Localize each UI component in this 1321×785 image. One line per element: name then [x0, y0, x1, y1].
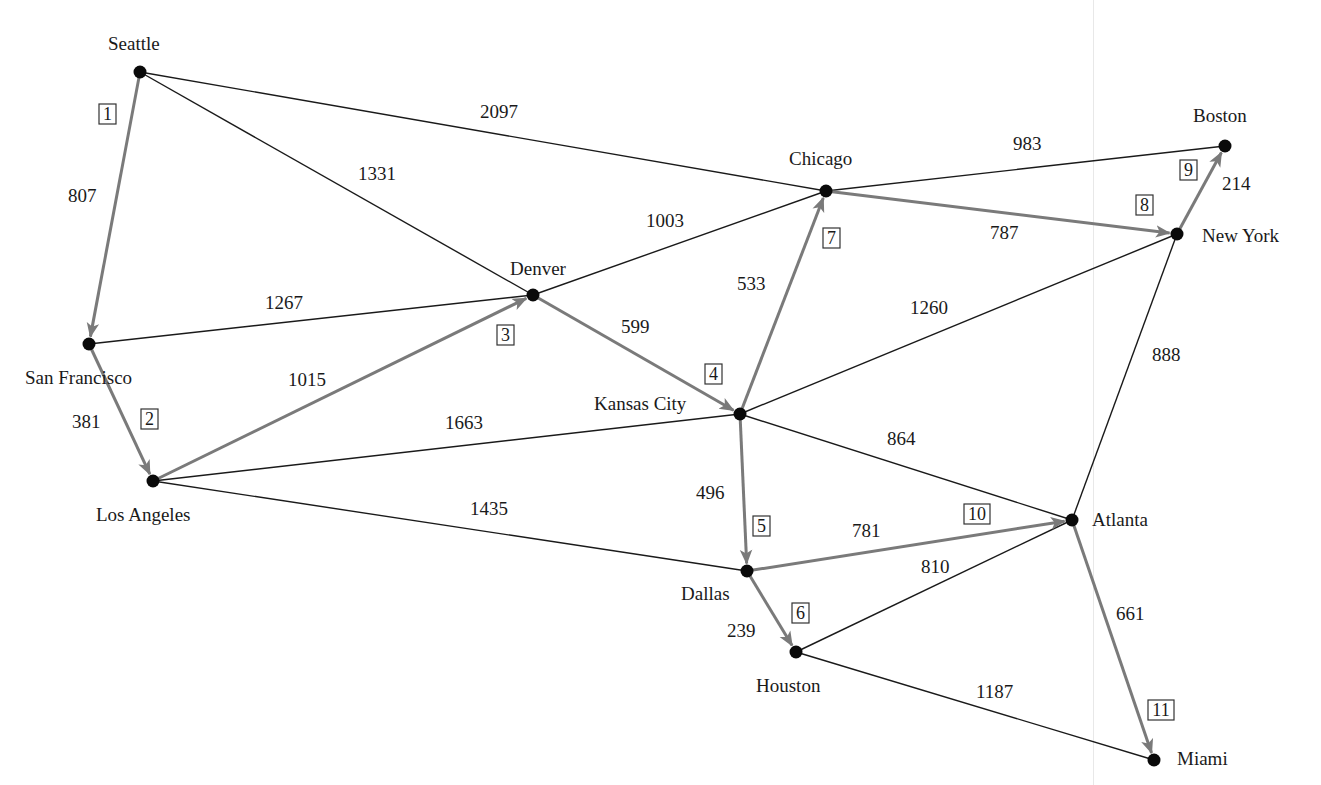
- edge-weight-label: 214: [1222, 173, 1251, 194]
- city-node-atlanta: [1066, 514, 1079, 527]
- step-number: 7: [827, 228, 836, 248]
- edge-seattle-chicago: [140, 72, 826, 191]
- city-node-miami: [1148, 754, 1161, 767]
- edge-weight-label: 533: [737, 273, 766, 294]
- step-number: 1: [103, 104, 112, 124]
- city-labels-layer: SeattleSan FranciscoLos AngelesDenverChi…: [25, 33, 1280, 769]
- edge-weight-label: 1015: [288, 369, 326, 390]
- city-node-houston: [790, 646, 803, 659]
- edge-weight-label: 1331: [358, 163, 396, 184]
- edge-denver-chicago: [533, 191, 826, 295]
- city-label-seattle: Seattle: [108, 33, 160, 54]
- edge-weight-label: 1003: [646, 210, 684, 231]
- city-label-kansascity: Kansas City: [594, 393, 687, 414]
- edge-losangeles-dallas: [153, 481, 747, 571]
- step-badge: 9: [1180, 160, 1197, 180]
- tree-edge-kansascity-chicago: [740, 198, 823, 414]
- edge-weight-label: 781: [852, 520, 881, 541]
- city-label-atlanta: Atlanta: [1092, 509, 1148, 530]
- step-badge: 6: [792, 603, 809, 623]
- tree-edge-losangeles-denver: [153, 298, 526, 481]
- tree-edge-kansascity-dallas: [740, 414, 747, 564]
- edge-weight-label: 1260: [910, 297, 948, 318]
- edge-weight-label: 1187: [976, 681, 1013, 702]
- city-label-sanfrancisco: San Francisco: [25, 367, 132, 388]
- nodes-layer: [83, 66, 1232, 767]
- step-badge: 1: [99, 104, 116, 124]
- step-badge: 3: [497, 325, 514, 345]
- city-node-denver: [527, 289, 540, 302]
- edge-weight-label: 1663: [445, 412, 483, 433]
- city-node-newyork: [1171, 228, 1184, 241]
- edge-weight-label: 661: [1116, 603, 1145, 624]
- edge-weight-label: 807: [68, 185, 97, 206]
- step-badge: 7: [823, 228, 840, 248]
- edge-weight-label: 888: [1152, 344, 1181, 365]
- city-node-kansascity: [734, 408, 747, 421]
- edge-kansascity-newyork: [740, 234, 1177, 414]
- step-badge: 8: [1136, 195, 1153, 215]
- edge-weight-label: 1435: [470, 498, 508, 519]
- edges-layer: [89, 72, 1225, 760]
- city-label-dallas: Dallas: [681, 583, 730, 604]
- edge-weight-label: 983: [1013, 133, 1042, 154]
- step-number: 9: [1184, 160, 1193, 180]
- city-node-dallas: [741, 565, 754, 578]
- step-number: 4: [709, 364, 718, 384]
- step-badge: 11: [1148, 700, 1174, 720]
- step-number: 8: [1140, 195, 1149, 215]
- step-badge: 4: [705, 364, 722, 384]
- edge-weight-label: 864: [887, 428, 916, 449]
- edge-newyork-atlanta: [1072, 234, 1177, 520]
- step-badge: 5: [753, 516, 770, 536]
- edge-weight-label: 1267: [265, 292, 303, 313]
- step-number: 6: [796, 603, 805, 623]
- city-graph-diagram: 2097133180712673811015166314351003599533…: [0, 0, 1321, 785]
- city-node-seattle: [134, 66, 147, 79]
- city-label-newyork: New York: [1202, 225, 1280, 246]
- tree-edge-atlanta-miami: [1072, 520, 1152, 753]
- city-label-boston: Boston: [1193, 105, 1247, 126]
- step-number: 2: [145, 409, 154, 429]
- city-label-losangeles: Los Angeles: [96, 504, 190, 525]
- city-label-miami: Miami: [1177, 748, 1228, 769]
- city-label-chicago: Chicago: [789, 148, 852, 169]
- edge-weight-label: 239: [727, 620, 756, 641]
- city-node-chicago: [820, 185, 833, 198]
- edge-weight-label: 810: [921, 556, 950, 577]
- city-node-boston: [1219, 140, 1232, 153]
- edge-sanfrancisco-denver: [89, 295, 533, 344]
- edge-weight-label: 496: [696, 482, 725, 503]
- city-label-houston: Houston: [756, 675, 821, 696]
- step-number: 5: [757, 516, 766, 536]
- edge-houston-atlanta: [796, 520, 1072, 652]
- edge-houston-miami: [796, 652, 1154, 760]
- city-label-denver: Denver: [510, 258, 567, 279]
- city-node-sanfrancisco: [83, 338, 96, 351]
- edge-weight-label: 599: [621, 316, 650, 337]
- edge-weight-label: 787: [990, 222, 1019, 243]
- step-number: 10: [968, 504, 986, 524]
- step-badge: 2: [141, 409, 158, 429]
- step-number: 3: [501, 325, 510, 345]
- edge-weight-label: 2097: [480, 101, 518, 122]
- step-number: 11: [1152, 700, 1169, 720]
- edge-weight-label: 381: [72, 411, 101, 432]
- city-node-losangeles: [147, 475, 160, 488]
- step-badge: 10: [964, 504, 990, 524]
